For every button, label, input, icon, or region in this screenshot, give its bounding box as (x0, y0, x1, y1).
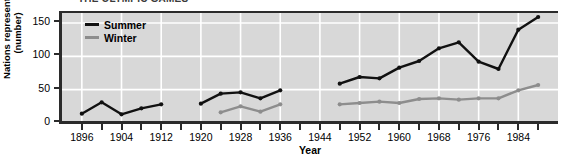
series-lines (80, 15, 541, 117)
y-tick-label: 100 (18, 49, 50, 59)
y-axis-spine (59, 11, 62, 122)
data-point-summer (139, 106, 143, 110)
x-tick-mark (160, 124, 162, 130)
data-point-summer (417, 59, 421, 63)
data-point-summer (477, 60, 481, 64)
data-point-winter (496, 96, 500, 100)
data-point-winter (219, 110, 223, 114)
legend-item-winter[interactable]: Winter (85, 31, 146, 44)
x-tick-mark (319, 124, 321, 130)
y-tick-mark (54, 87, 59, 89)
chart-legend: SummerWinter (85, 18, 146, 44)
chart-title: THE OLYMPIC GAMES (78, 0, 338, 3)
data-point-winter (536, 83, 540, 87)
x-tick-label: 1952 (340, 131, 380, 143)
data-point-winter (516, 88, 520, 92)
data-point-winter (457, 98, 461, 102)
data-point-summer (258, 96, 262, 100)
x-tick-mark (121, 124, 123, 130)
x-tick-mark (418, 124, 420, 130)
x-tick-mark (517, 124, 519, 130)
x-tick-mark (359, 124, 361, 130)
data-point-winter (238, 104, 242, 108)
x-tick-label: 1984 (498, 131, 538, 143)
x-tick-mark (398, 124, 400, 130)
x-tick-mark (438, 124, 440, 130)
legend-item-summer[interactable]: Summer (85, 18, 146, 31)
data-point-winter (397, 101, 401, 105)
x-axis-title: Year (60, 144, 560, 156)
legend-label: Winter (104, 32, 137, 44)
olympic-nations-chart-figure: THE OLYMPIC GAMES Nations represented (n… (0, 0, 564, 161)
data-point-summer (199, 102, 203, 106)
legend-line-swatch-icon (85, 36, 99, 39)
x-axis-spine (59, 121, 558, 124)
y-tick-label: 0 (18, 116, 50, 126)
y-tick-mark (54, 20, 59, 22)
data-point-winter (278, 102, 282, 106)
x-tick-mark (101, 124, 103, 130)
data-point-summer (397, 66, 401, 70)
x-tick-mark (259, 124, 261, 130)
x-tick-label: 1944 (300, 131, 340, 143)
x-tick-mark (81, 124, 83, 130)
data-point-summer (219, 92, 223, 96)
x-tick-mark (240, 124, 242, 130)
x-tick-mark (220, 124, 222, 130)
data-point-winter (477, 96, 481, 100)
y-axis-title: Nations represented (number) (1, 0, 31, 87)
data-point-summer (159, 102, 163, 106)
data-point-summer (457, 40, 461, 44)
data-point-winter (338, 102, 342, 106)
x-tick-mark (378, 124, 380, 130)
x-tick-mark (458, 124, 460, 130)
y-axis-title-line1: Nations represented (1, 0, 12, 79)
x-tick-label: 1928 (221, 131, 261, 143)
data-point-winter (377, 100, 381, 104)
legend-line-swatch-icon (85, 23, 99, 26)
x-tick-label: 1976 (459, 131, 499, 143)
x-tick-mark (180, 124, 182, 130)
x-tick-mark (200, 124, 202, 130)
y-tick-mark (54, 120, 59, 122)
x-tick-label: 1896 (62, 131, 102, 143)
x-tick-mark (140, 124, 142, 130)
x-tick-label: 1904 (102, 131, 142, 143)
x-tick-mark (537, 124, 539, 130)
y-tick-mark (54, 53, 59, 55)
x-tick-mark (339, 124, 341, 130)
x-tick-label: 1960 (379, 131, 419, 143)
x-tick-mark (478, 124, 480, 130)
data-point-summer (338, 82, 342, 86)
data-point-summer (80, 112, 84, 116)
x-tick-mark (299, 124, 301, 130)
x-tick-label: 1968 (419, 131, 459, 143)
series-line-winter (221, 104, 281, 112)
x-tick-label: 1912 (141, 131, 181, 143)
y-tick-label: 50 (18, 83, 50, 93)
y-axis-title-line2: (number) (12, 0, 23, 87)
y-tick-label: 150 (18, 16, 50, 26)
data-point-summer (100, 100, 104, 104)
data-point-summer (238, 90, 242, 94)
data-point-summer (119, 112, 123, 116)
x-tick-label: 1920 (181, 131, 221, 143)
data-point-summer (516, 28, 520, 32)
x-tick-mark (279, 124, 281, 130)
data-point-winter (258, 110, 262, 114)
data-point-summer (358, 75, 362, 79)
data-point-winter (437, 96, 441, 100)
data-point-winter (417, 97, 421, 101)
legend-label: Summer (104, 19, 146, 31)
data-point-summer (377, 76, 381, 80)
x-tick-mark (497, 124, 499, 130)
data-point-winter (358, 101, 362, 105)
x-tick-label: 1936 (260, 131, 300, 143)
data-point-summer (496, 67, 500, 71)
data-point-summer (278, 88, 282, 92)
data-point-summer (536, 15, 540, 19)
data-point-summer (437, 46, 441, 50)
